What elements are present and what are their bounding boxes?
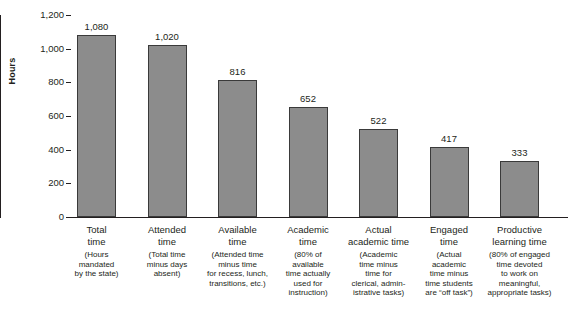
- y-axis-tick: [66, 15, 71, 16]
- y-axis-tick-label: 800: [14, 77, 64, 87]
- x-axis-category: Engaged time(Actual academic time minus …: [410, 224, 488, 298]
- y-axis-tick-label-text: 1,000: [20, 44, 64, 53]
- x-axis-category: Attended time(Total time minus days abse…: [128, 224, 206, 279]
- bar-value-label: 522: [347, 116, 410, 126]
- category-title: Attended time: [128, 224, 206, 247]
- y-axis-tick: [66, 217, 71, 218]
- bar: [430, 147, 469, 217]
- category-description: (Attended time minus time for recess, lu…: [199, 250, 277, 288]
- y-axis-line: [0, 15, 1, 218]
- y-axis-tick-label: 1,000: [14, 44, 64, 54]
- bar: [359, 129, 398, 217]
- y-axis-tick: [66, 150, 71, 151]
- category-description: (80% of available time actually used for…: [269, 250, 347, 298]
- x-axis-line: [71, 217, 568, 218]
- x-axis-category: Actual academic time(Academic time minus…: [340, 224, 418, 298]
- bar-value-label: 1,080: [65, 22, 128, 32]
- category-description: (Academic time minus time for clerical, …: [340, 250, 418, 298]
- x-axis-category: Total time(Hours mandated by the state): [58, 224, 136, 279]
- y-axis-tick-label-text: 200: [20, 178, 64, 187]
- y-axis-tick-label: 600: [14, 111, 64, 121]
- bar: [77, 35, 116, 217]
- category-description: (Hours mandated by the state): [58, 250, 136, 279]
- y-axis-tick-label: 0: [14, 212, 64, 222]
- y-axis-tick-label-text: 0: [20, 212, 64, 221]
- y-axis-tick: [66, 183, 71, 184]
- x-axis-category: Available time(Attended time minus time …: [199, 224, 277, 288]
- bar-value-label: 1,020: [136, 32, 199, 42]
- category-description: (Total time minus days absent): [128, 250, 206, 279]
- y-axis-tick-label-text: 400: [20, 145, 64, 154]
- y-axis-tick: [66, 116, 71, 117]
- x-axis-category: Productive learning time(80% of engaged …: [481, 224, 559, 298]
- category-description: (Actual academic time minus time student…: [410, 250, 488, 298]
- category-title: Actual academic time: [340, 224, 418, 247]
- y-axis-tick: [66, 49, 71, 50]
- y-axis-tick: [66, 82, 71, 83]
- bar: [500, 161, 539, 217]
- category-title: Academic time: [269, 224, 347, 247]
- category-title: Engaged time: [410, 224, 488, 247]
- category-title: Productive learning time: [481, 224, 559, 247]
- x-axis-category: Academic time(80% of available time actu…: [269, 224, 347, 298]
- category-title: Available time: [199, 224, 277, 247]
- bar-value-label: 417: [418, 134, 481, 144]
- bar: [289, 107, 328, 217]
- bar-value-label: 652: [277, 94, 340, 104]
- category-title: Total time: [58, 224, 136, 247]
- category-description: (80% of engaged time devoted to work on …: [481, 250, 559, 298]
- y-axis-tick-label-text: 600: [20, 111, 64, 120]
- y-axis-tick-label: 400: [14, 145, 64, 155]
- y-axis-tick-label-text: 1,200: [20, 10, 64, 19]
- bar-chart: Hours 02004006008001,0001,200 1,0801,020…: [0, 0, 586, 318]
- bar: [218, 80, 257, 217]
- bar-value-label: 333: [488, 148, 551, 158]
- bar: [148, 45, 187, 217]
- y-axis-tick-label: 200: [14, 178, 64, 188]
- y-axis-tick-label: 1,200: [14, 10, 64, 20]
- y-axis-tick-label-text: 800: [20, 77, 64, 86]
- bar-value-label: 816: [206, 67, 269, 77]
